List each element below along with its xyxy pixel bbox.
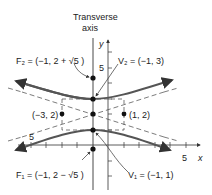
vertex-v1-point xyxy=(90,127,95,132)
x-axis xyxy=(18,142,200,148)
x-tick-neg5: 5 xyxy=(29,132,34,142)
vertex-v2-point xyxy=(90,96,95,101)
title-line-2: axis xyxy=(82,23,99,33)
x-tick-5: 5 xyxy=(182,153,187,163)
focus-f1-point xyxy=(90,146,95,151)
focus-f2-point xyxy=(90,75,95,80)
y-axis xyxy=(108,40,112,190)
center-point xyxy=(90,111,95,116)
v1-label: V₁ = (−1, 1) xyxy=(128,170,174,180)
f2-label: F₂ = (−1, 2 + √5 ) xyxy=(16,56,84,66)
center-left-label: (−3, 2) xyxy=(32,110,58,120)
center-right-label: (1, 2) xyxy=(129,110,150,120)
point-left xyxy=(60,112,65,117)
lower-branch xyxy=(93,130,170,150)
x-axis-label: x xyxy=(197,153,203,163)
y-axis-label: y xyxy=(98,39,104,49)
f1-label: F₁ = (−1, 2 − √5 ) xyxy=(16,170,84,180)
title-line-1: Transverse xyxy=(73,12,118,22)
y-tick-5: 5 xyxy=(99,63,104,73)
v2-label: V₂ = (−1, 3) xyxy=(118,56,164,66)
hyperbola-diagram: Transverse axis y x 5 5 5 F₂ = (−1, 2 + … xyxy=(0,0,212,195)
point-right xyxy=(122,112,127,117)
